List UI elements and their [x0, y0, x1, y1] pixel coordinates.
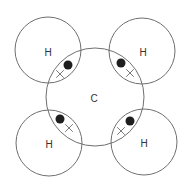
hydrogen-atom-top-right: H — [109, 18, 175, 84]
hydrogen-label: H — [45, 139, 52, 150]
electron-cross-icon — [127, 70, 134, 77]
electron-dot-icon — [56, 115, 65, 124]
hydrogen-label: H — [139, 47, 146, 58]
hydrogen-label: H — [44, 47, 51, 58]
carbon-label: C — [90, 93, 97, 104]
methane-dot-cross-diagram: HHHH C — [0, 0, 186, 194]
electron-dot-icon — [126, 117, 135, 126]
electron-cross-icon — [118, 128, 125, 135]
hydrogen-label: H — [140, 138, 147, 149]
electron-cross-icon — [66, 125, 73, 132]
central-atom: C — [46, 48, 144, 146]
electron-dot-icon — [64, 61, 73, 70]
hydrogen-atom-top-left: H — [15, 17, 81, 83]
hydrogen-atom-bottom-left: H — [16, 110, 82, 176]
bonding-pair-top-right — [117, 59, 134, 77]
hydrogen-atom-bottom-right: H — [111, 109, 177, 175]
electron-cross-icon — [57, 71, 64, 78]
electron-dot-icon — [117, 59, 126, 68]
